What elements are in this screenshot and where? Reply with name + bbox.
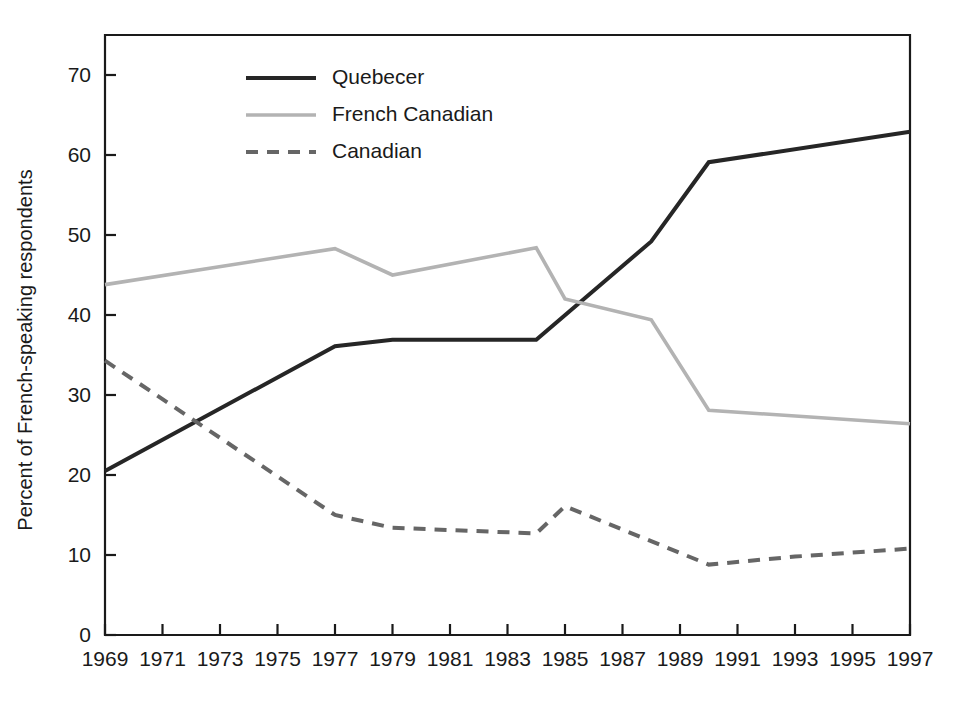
line-chart: 010203040506070 196919711973197519771979… (0, 0, 961, 701)
x-axis-ticks: 1969197119731975197719791981198319851987… (82, 624, 934, 670)
x-tick-label: 1977 (312, 647, 359, 670)
y-tick-label: 20 (68, 463, 91, 486)
series-line-french-canadian (105, 248, 910, 424)
x-tick-label: 1973 (197, 647, 244, 670)
x-tick-label: 1981 (427, 647, 474, 670)
series-line-quebecer (105, 132, 910, 471)
y-tick-label: 10 (68, 543, 91, 566)
x-tick-label: 1991 (714, 647, 761, 670)
x-tick-label: 1969 (82, 647, 129, 670)
x-tick-label: 1975 (254, 647, 301, 670)
y-tick-label: 40 (68, 303, 91, 326)
y-tick-label: 60 (68, 143, 91, 166)
y-tick-label: 50 (68, 223, 91, 246)
x-tick-label: 1997 (887, 647, 934, 670)
x-tick-label: 1979 (369, 647, 416, 670)
plot-frame (105, 35, 910, 635)
y-axis-ticks: 010203040506070 (68, 63, 116, 646)
legend-label-quebecer: Quebecer (332, 65, 424, 88)
x-tick-label: 1989 (657, 647, 704, 670)
x-tick-label: 1985 (542, 647, 589, 670)
series-line-canadian (105, 361, 910, 565)
y-tick-label: 70 (68, 63, 91, 86)
legend-label-french-canadian: French Canadian (332, 102, 493, 125)
legend-label-canadian: Canadian (332, 139, 422, 162)
chart-legend: QuebecerFrench CanadianCanadian (246, 65, 493, 162)
x-tick-label: 1995 (829, 647, 876, 670)
chart-figure: 010203040506070 196919711973197519771979… (0, 0, 961, 701)
y-axis-title: Percent of French-speaking respondents (14, 169, 36, 530)
x-tick-label: 1987 (599, 647, 646, 670)
x-tick-label: 1993 (772, 647, 819, 670)
y-tick-label: 0 (79, 623, 91, 646)
y-tick-label: 30 (68, 383, 91, 406)
x-tick-label: 1971 (139, 647, 186, 670)
x-tick-label: 1983 (484, 647, 531, 670)
series-group (105, 132, 910, 565)
